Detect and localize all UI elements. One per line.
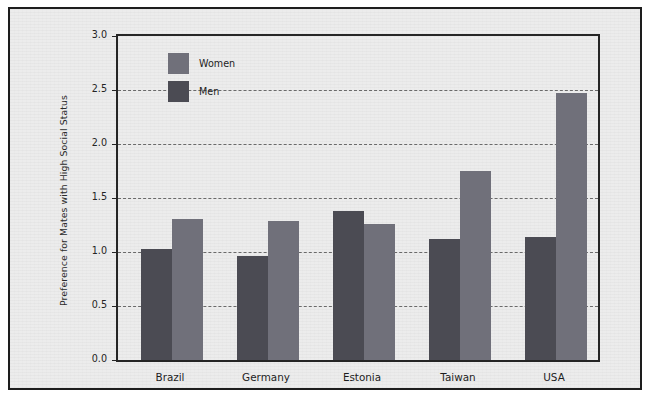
bar-estonia-women	[364, 224, 395, 360]
bar-usa-men	[525, 237, 556, 360]
bar-estonia-men	[333, 211, 364, 360]
x-axis-tick-label-taiwan: Taiwan	[440, 371, 475, 383]
bar-usa-women	[556, 93, 587, 360]
bar-taiwan-men	[429, 239, 460, 360]
y-axis-tick-labels: 0.00.51.01.52.02.53.0	[73, 9, 107, 392]
legend-item-men: Men	[168, 79, 288, 103]
bar-brazil-women	[172, 219, 203, 360]
legend-swatch-women	[168, 53, 189, 74]
x-axis-tick-label-germany: Germany	[242, 371, 290, 383]
x-axis-tick-label-estonia: Estonia	[343, 371, 381, 383]
y-axis-tick-label: 1.0	[73, 245, 107, 256]
figure-frame: Preference for Mates with High Social St…	[8, 7, 642, 390]
x-axis-tick-label-brazil: Brazil	[156, 371, 185, 383]
y-axis-tick-label: 1.5	[73, 191, 107, 202]
legend-label-women: Women	[199, 58, 235, 69]
x-axis-tick-label-usa: USA	[543, 371, 565, 383]
y-axis-tick-label: 2.0	[73, 137, 107, 148]
bar-germany-women	[268, 221, 299, 360]
y-axis-tick-label: 3.0	[73, 29, 107, 40]
legend-label-men: Men	[199, 86, 219, 97]
y-axis-tick-label: 2.5	[73, 83, 107, 94]
legend-item-women: Women	[168, 51, 288, 75]
y-axis-tick-label: 0.5	[73, 299, 107, 310]
y-axis-tick-label: 0.0	[73, 353, 107, 364]
x-axis-tick-labels: BrazilGermanyEstoniaTaiwanUSA	[116, 365, 600, 389]
y-axis-title: Preference for Mates with High Social St…	[58, 51, 69, 351]
bar-brazil-men	[141, 249, 172, 360]
chart-legend: WomenMen	[168, 51, 288, 107]
legend-swatch-men	[168, 81, 189, 102]
bar-taiwan-women	[460, 171, 491, 360]
bar-germany-men	[237, 256, 268, 360]
y-axis-tick-mark	[112, 360, 118, 361]
